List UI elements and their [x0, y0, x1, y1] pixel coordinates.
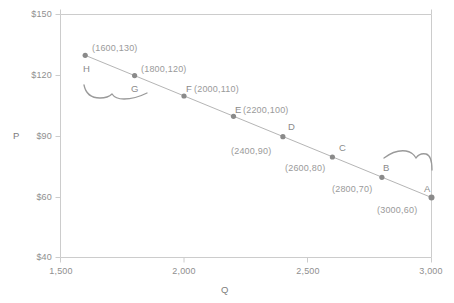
point-coord-E: (2200,100)	[243, 105, 289, 115]
point-coord-B: (2800,70)	[332, 184, 372, 194]
y-axis-title: P	[13, 131, 20, 141]
x-tick-marks	[61, 258, 432, 263]
point-label-H: H	[83, 64, 90, 74]
marker-H	[83, 53, 88, 58]
demand-curve-chart: $150 $120 $90 $60 $40 P 1,500 2,000 2,50…	[0, 0, 454, 303]
marker-C	[330, 154, 335, 159]
x-axis-title: Q	[221, 285, 229, 295]
point-label-F: F	[186, 84, 192, 94]
point-label-A: A	[424, 184, 431, 194]
point-coord-H: (1600,130)	[92, 43, 138, 53]
point-label-B: B	[383, 163, 390, 173]
chart-canvas	[0, 0, 454, 303]
curly-brace-right-icon	[384, 151, 432, 170]
x-tick-label-0: 1,500	[36, 266, 86, 276]
top-tick-marks	[61, 10, 432, 15]
point-label-E: E	[235, 105, 242, 115]
y-tick-label-3: $60	[10, 192, 52, 202]
x-tick-label-1: 2,000	[159, 266, 209, 276]
demand-line	[85, 55, 431, 197]
point-label-C: C	[339, 143, 346, 153]
x-tick-label-2: 2,500	[283, 266, 333, 276]
x-tick-label-3: 3,000	[406, 266, 454, 276]
point-coord-F: (2000,110)	[194, 84, 239, 94]
point-coord-D: (2400,90)	[231, 146, 271, 156]
point-coord-C: (2600,80)	[285, 163, 325, 173]
marker-D	[280, 134, 285, 139]
point-label-G: G	[131, 84, 139, 94]
point-coord-A: (3000,60)	[377, 205, 417, 215]
y-tick-label-1: $120	[10, 70, 52, 80]
y-tick-label-0: $150	[10, 9, 52, 19]
marker-G	[132, 73, 137, 78]
marker-A	[429, 195, 435, 201]
y-tick-marks	[56, 15, 61, 258]
marker-F	[181, 93, 186, 98]
marker-B	[379, 175, 384, 180]
point-label-D: D	[288, 122, 295, 132]
point-coord-G: (1800,120)	[141, 64, 187, 74]
y-tick-label-4: $40	[10, 252, 52, 262]
